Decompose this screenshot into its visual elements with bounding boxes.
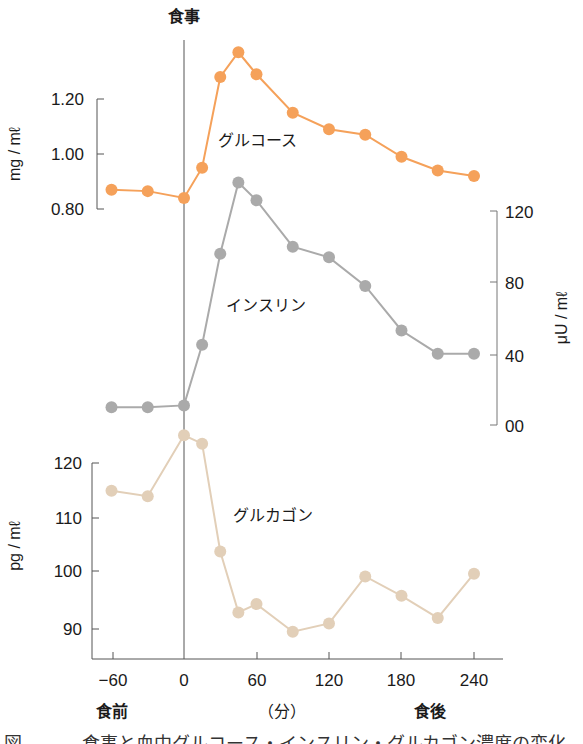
data-point <box>323 617 335 629</box>
data-point <box>468 348 480 360</box>
insulin-series <box>106 176 481 413</box>
before-meal-label: 食前 <box>95 702 128 721</box>
data-point <box>359 129 371 141</box>
data-point <box>232 176 244 188</box>
data-point <box>106 184 118 196</box>
data-point <box>106 401 118 413</box>
glucose-tick: 1.20 <box>51 90 84 109</box>
x-tick: 120 <box>315 671 343 690</box>
data-point <box>396 590 408 602</box>
glucagon-tick: 110 <box>55 509 82 528</box>
data-point <box>468 170 480 182</box>
glucagon-tick: 100 <box>54 562 82 581</box>
data-point <box>142 401 154 413</box>
insulin-tick: 120 <box>505 203 533 222</box>
glucose-tick: 0.80 <box>51 200 84 219</box>
glucose-series-label: グルコース <box>218 131 297 150</box>
insulin-tick: 00 <box>505 417 524 436</box>
glucagon-axis: 120 110 100 90 pg / mℓ <box>6 454 99 659</box>
data-point <box>196 438 208 450</box>
glucagon-series <box>106 429 481 637</box>
data-point <box>178 192 190 204</box>
glucose-unit: mg / mℓ <box>6 127 23 181</box>
data-point <box>106 485 118 497</box>
data-point <box>468 568 480 580</box>
x-tick: 0 <box>179 671 188 690</box>
data-point <box>214 71 226 83</box>
x-tick: −60 <box>99 671 128 690</box>
data-point <box>323 123 335 135</box>
data-point <box>142 185 154 197</box>
meal-marker-label: 食事 <box>167 7 200 26</box>
data-point <box>196 339 208 351</box>
data-point <box>178 399 190 411</box>
series-line <box>112 182 475 407</box>
x-axis: −60 0 60 120 180 240 食前 （分） 食後 <box>92 652 503 721</box>
data-point <box>214 248 226 260</box>
data-point <box>251 194 263 206</box>
glucagon-tick: 120 <box>54 454 82 473</box>
data-point <box>323 251 335 263</box>
data-point <box>432 165 444 177</box>
data-point <box>196 162 208 174</box>
insulin-unit: μU / mℓ <box>553 292 570 345</box>
data-point <box>214 546 226 558</box>
insulin-axis: 120 80 40 00 μU / mℓ <box>490 203 570 436</box>
data-point <box>178 429 190 441</box>
data-point <box>142 490 154 502</box>
hormone-chart: 食事 1.20 1.00 0.80 mg / mℓ 120 80 40 00 μ… <box>0 0 583 744</box>
data-point <box>396 324 408 336</box>
x-tick: 240 <box>460 671 488 690</box>
glucose-tick: 1.00 <box>51 145 84 164</box>
data-point <box>396 151 408 163</box>
series-line <box>112 52 475 198</box>
insulin-series-label: インスリン <box>226 296 306 315</box>
x-tick: 60 <box>248 671 267 690</box>
insulin-tick: 80 <box>505 274 524 293</box>
data-point <box>359 280 371 292</box>
data-point <box>359 570 371 582</box>
x-unit-label: （分） <box>258 702 306 721</box>
glucagon-series-label: グルカゴン <box>233 506 313 525</box>
glucagon-unit: pg / mℓ <box>6 521 23 571</box>
series-line <box>112 435 475 631</box>
glucose-series <box>106 46 481 204</box>
data-point <box>287 626 299 638</box>
data-point <box>432 348 444 360</box>
insulin-tick: 40 <box>505 347 524 366</box>
glucose-axis: 1.20 1.00 0.80 mg / mℓ <box>6 90 104 219</box>
data-point <box>251 598 263 610</box>
data-point <box>287 241 299 253</box>
data-point <box>232 46 244 58</box>
figure-caption: 図 …… 食事と血中グルコース・インスリン・グルカゴン濃度の変化 <box>0 733 583 744</box>
x-tick: 180 <box>387 671 415 690</box>
glucagon-tick: 90 <box>63 620 82 639</box>
data-point <box>251 68 263 80</box>
data-point <box>232 606 244 618</box>
after-meal-label: 食後 <box>413 702 447 721</box>
data-point <box>287 107 299 119</box>
data-point <box>432 612 444 624</box>
